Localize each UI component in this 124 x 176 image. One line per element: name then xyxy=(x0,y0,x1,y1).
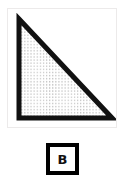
right-triangle-shape xyxy=(8,9,116,127)
figure-label-box: B xyxy=(46,143,79,175)
figure-stage xyxy=(8,9,116,127)
figure-label-box-inner: B xyxy=(50,147,75,171)
figure-label-text: B xyxy=(58,153,68,166)
figure-card xyxy=(7,8,117,128)
figure-panel: B xyxy=(0,0,124,176)
